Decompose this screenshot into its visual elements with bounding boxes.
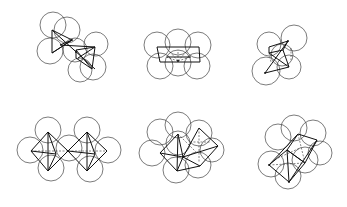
panel-top-left [37, 12, 108, 82]
panel-bottom-right [258, 115, 332, 189]
panel-top-center [144, 29, 211, 79]
panel-top-right [252, 25, 307, 85]
panel-bottom-left [17, 117, 121, 182]
figure [0, 0, 347, 207]
panel-bottom-center [139, 112, 224, 183]
